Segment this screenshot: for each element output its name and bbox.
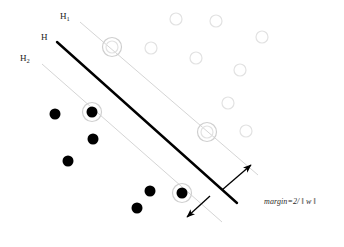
- data-point-filled: [88, 134, 99, 145]
- data-point-hollow: [222, 97, 234, 109]
- support-vector-hollow: [106, 41, 118, 53]
- margin-arrows: [187, 165, 251, 217]
- support-vector-hollow: [201, 126, 213, 138]
- data-point-hollow: [170, 13, 182, 25]
- margin-arrow-lower: [187, 196, 210, 217]
- label-h2: H2: [20, 54, 30, 63]
- support-vector-ring: [103, 38, 122, 57]
- line-h2: [42, 64, 222, 222]
- margin-formula-label: margin=2/ ‖ w ‖: [264, 198, 316, 206]
- label-h2-text: H: [20, 53, 27, 63]
- class-negative-points: [50, 103, 192, 214]
- support-vector-filled: [177, 188, 188, 199]
- data-point-hollow: [190, 52, 202, 64]
- data-point-filled: [63, 156, 74, 167]
- data-point-filled: [50, 109, 61, 120]
- support-vector-ring: [198, 123, 217, 142]
- class-positive-points: [103, 13, 269, 142]
- data-point-hollow: [234, 64, 246, 76]
- data-point-filled: [132, 203, 143, 214]
- data-point-hollow: [145, 42, 157, 54]
- label-h2-subscript: 2: [27, 57, 30, 64]
- data-point-hollow: [240, 125, 252, 137]
- svm-diagram-canvas: [0, 0, 344, 247]
- label-h1-text: H: [60, 11, 67, 21]
- data-point-hollow: [256, 31, 268, 43]
- label-h1-subscript: 1: [67, 15, 70, 22]
- label-h: H: [41, 33, 48, 42]
- data-point-filled: [145, 186, 156, 197]
- label-h-text: H: [41, 32, 48, 42]
- label-h1: H1: [60, 12, 70, 21]
- support-vector-filled: [87, 107, 98, 118]
- margin-arrow-upper: [222, 165, 251, 190]
- svm-margin-figure: H1 H H2 margin=2/ ‖ w ‖: [0, 0, 344, 247]
- data-point-hollow: [210, 15, 222, 27]
